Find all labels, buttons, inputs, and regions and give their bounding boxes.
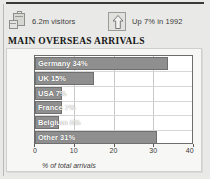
bar-row: USA 7%: [35, 87, 192, 100]
plot-wrapper: Germany 34%UK 15%USA 7%France 7%Belgium …: [15, 55, 193, 151]
top-divider: [6, 2, 204, 4]
stat-visitors: 6.2m visitors: [8, 9, 75, 33]
x-tick-label: 10: [70, 147, 78, 154]
bar-rows: Germany 34%UK 15%USA 7%France 7%Belgium …: [35, 56, 192, 143]
stat-growth-label: Up 7% in 1992: [132, 17, 183, 26]
bar-row: Germany 34%: [35, 57, 192, 70]
stat-visitors-label: 6.2m visitors: [32, 17, 75, 26]
plot-area: Germany 34%UK 15%USA 7%France 7%Belgium …: [34, 55, 193, 144]
up-arrow-icon: [108, 11, 126, 31]
infographic-root: 6.2m visitors Up 7% in 1992 MAIN OVERSEA…: [0, 0, 210, 179]
bar-label: Germany 34%: [38, 57, 88, 70]
stat-growth: Up 7% in 1992: [108, 9, 183, 33]
bar-label: UK 15%: [38, 72, 66, 85]
suitcase-icon: [8, 11, 26, 31]
bar-label: Belgium 6%: [38, 116, 81, 129]
bar-label: USA 7%: [38, 87, 66, 100]
x-tick-label: 40: [186, 147, 194, 154]
bar-label: Other 31%: [38, 131, 75, 144]
x-tick-label: 20: [110, 147, 118, 154]
bar-row: Other 31%: [35, 131, 192, 144]
x-axis-caption: % of total arrivals: [42, 162, 96, 169]
x-tick-label: 0: [33, 147, 37, 154]
bar-row: UK 15%: [35, 72, 192, 85]
header-stats: 6.2m visitors Up 7% in 1992: [4, 9, 206, 33]
x-axis: 010203040: [34, 144, 193, 158]
chart-panel: Germany 34%UK 15%USA 7%France 7%Belgium …: [6, 48, 202, 172]
bar-row: Belgium 6%: [35, 116, 192, 129]
page-title: MAIN OVERSEAS ARRIVALS: [8, 36, 145, 46]
x-tick-label: 30: [149, 147, 157, 154]
bar-row: France 7%: [35, 101, 192, 114]
bar-label: France 7%: [38, 101, 76, 114]
